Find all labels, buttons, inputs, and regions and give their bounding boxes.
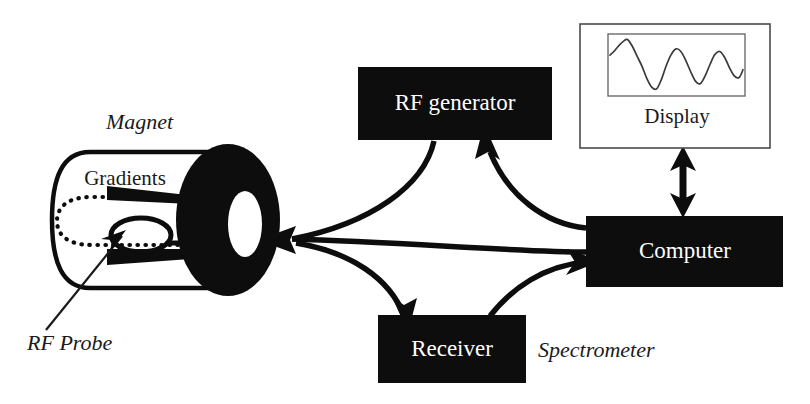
display-panel[interactable]: Display: [580, 24, 770, 148]
connection-computer-to-display: [670, 146, 696, 218]
magnet-label: Magnet: [105, 109, 174, 134]
computer-label: Computer: [639, 238, 731, 263]
receiver-label: Receiver: [411, 336, 493, 361]
spectrometer-label: Spectrometer: [538, 337, 655, 362]
rf-generator-label: RF generator: [395, 90, 516, 115]
rf-probe-label: RF Probe: [26, 330, 113, 355]
magnet-face: [176, 144, 280, 296]
computer-block[interactable]: Computer: [586, 216, 783, 287]
magnet-assembly: Magnet Gradients RF Probe: [26, 109, 280, 355]
display-label: Display: [644, 104, 710, 128]
gradients-label: Gradients: [84, 166, 166, 190]
connection-receiver-to-computer: [490, 249, 601, 316]
display-screen: [608, 34, 745, 96]
connection-computer-to-magnet: [292, 239, 586, 252]
magnet-bore-icon: [228, 191, 262, 257]
diagram-canvas: Magnet Gradients RF Probe RF generator R…: [0, 0, 810, 404]
rf-generator-block[interactable]: RF generator: [358, 67, 552, 140]
receiver-block[interactable]: Receiver: [378, 315, 526, 383]
connection-rf-generator-to-magnet: [292, 141, 434, 239]
